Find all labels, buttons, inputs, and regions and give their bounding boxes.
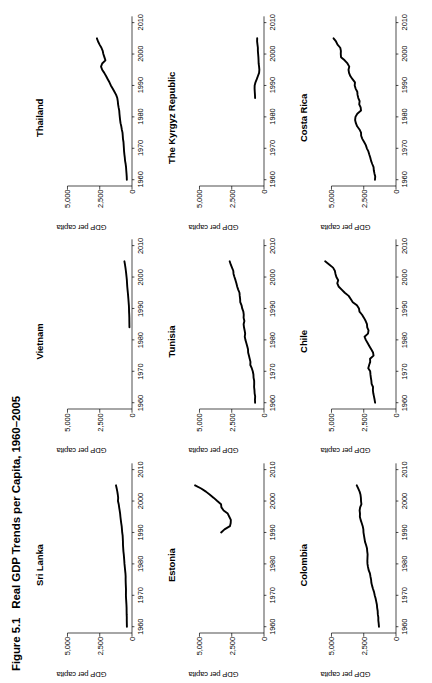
- chart-panel: The Kyrgyz RepublicGDP per capita02,5005…: [162, 6, 294, 230]
- x-tick-label: 1990: [136, 301, 145, 317]
- x-tick-label: 1970: [136, 363, 145, 379]
- x-tick-label: 1980: [268, 108, 277, 124]
- x-tick-label: 2000: [136, 46, 145, 62]
- x-tick-label: 1980: [136, 332, 145, 348]
- y-tick-label: 0: [260, 637, 269, 641]
- plot-svg: [184, 16, 264, 186]
- y-tick-label: 2,500: [359, 190, 368, 208]
- y-tick-label: 5,000: [63, 637, 72, 655]
- plot-svg: [52, 463, 132, 633]
- x-tick-label: 1960: [400, 395, 409, 411]
- panel-title: Costa Rica: [298, 6, 309, 230]
- x-tick-label: 1960: [400, 619, 409, 635]
- x-tick-label: 2010: [136, 14, 145, 30]
- y-axis-label-text: GDP per capita: [320, 670, 370, 679]
- y-tick-label: 5,000: [63, 190, 72, 208]
- x-tick-label: 2010: [400, 238, 409, 254]
- x-tick-label: 1980: [400, 108, 409, 124]
- chart-panel: VietnamGDP per capita02,5005,00019601970…: [30, 230, 162, 454]
- panel-title: Colombia: [298, 453, 309, 677]
- x-tick-label: 2010: [136, 238, 145, 254]
- x-tick-label: 2000: [400, 46, 409, 62]
- y-tick-label: 0: [392, 413, 401, 417]
- y-axis-ticks: 02,5005,000: [52, 190, 132, 218]
- plot-area: [316, 463, 396, 633]
- data-line: [230, 262, 255, 403]
- plot-area: [184, 463, 264, 633]
- x-tick-label: 2010: [268, 461, 277, 477]
- x-tick-label: 2000: [268, 46, 277, 62]
- y-tick-label: 2,500: [227, 637, 236, 655]
- panel-title: Sri Lanka: [34, 453, 45, 677]
- plot-svg: [184, 240, 264, 410]
- y-tick-label: 5,000: [195, 413, 204, 431]
- x-tick-label: 2000: [136, 493, 145, 509]
- y-axis-ticks: 02,5005,000: [184, 637, 264, 665]
- y-axis-label-text: GDP per capita: [188, 670, 238, 679]
- x-axis-ticks: 196019701980199020002010: [268, 463, 280, 633]
- data-line: [116, 485, 127, 626]
- x-axis-ticks: 196019701980199020002010: [268, 16, 280, 186]
- x-tick-label: 1990: [268, 301, 277, 317]
- y-tick-label: 5,000: [327, 190, 336, 208]
- y-tick-label: 0: [392, 190, 401, 194]
- y-tick-label: 2,500: [95, 190, 104, 208]
- chart-panel: Sri LankaGDP per capita02,5005,000196019…: [30, 453, 162, 677]
- x-tick-label: 1970: [400, 140, 409, 156]
- x-tick-label: 1980: [400, 332, 409, 348]
- data-line: [195, 485, 231, 532]
- x-axis-ticks: 196019701980199020002010: [136, 16, 148, 186]
- x-tick-label: 2010: [136, 461, 145, 477]
- y-axis-ticks: 02,5005,000: [184, 190, 264, 218]
- y-tick-label: 2,500: [227, 413, 236, 431]
- x-tick-label: 2010: [268, 238, 277, 254]
- plot-svg: [184, 463, 264, 633]
- x-tick-label: 2000: [400, 269, 409, 285]
- y-tick-label: 2,500: [359, 413, 368, 431]
- figure-title: Real GDP Trends per Capita, 1960–2005: [10, 396, 22, 609]
- plot-area: [184, 240, 264, 410]
- panel-title: Vietnam: [34, 230, 45, 454]
- y-tick-label: 5,000: [63, 413, 72, 431]
- chart-panel: EstoniaGDP per capita02,5005,00019601970…: [162, 453, 294, 677]
- x-tick-label: 1980: [136, 556, 145, 572]
- y-axis-label-text: GDP per capita: [320, 222, 370, 231]
- y-tick-label: 5,000: [327, 637, 336, 655]
- x-tick-label: 1980: [268, 556, 277, 572]
- y-axis-label-text: GDP per capita: [56, 222, 106, 231]
- y-tick-label: 0: [392, 637, 401, 641]
- x-tick-label: 1960: [136, 395, 145, 411]
- x-tick-label: 1990: [268, 524, 277, 540]
- x-axis-ticks: 196019701980199020002010: [400, 16, 412, 186]
- x-axis-ticks: 196019701980199020002010: [268, 240, 280, 410]
- x-tick-label: 2000: [268, 269, 277, 285]
- chart-panel: Costa RicaGDP per capita02,5005,00019601…: [294, 6, 426, 230]
- y-tick-label: 5,000: [327, 413, 336, 431]
- y-tick-label: 5,000: [195, 190, 204, 208]
- x-axis-ticks: 196019701980199020002010: [400, 463, 412, 633]
- plot-area: [184, 16, 264, 186]
- y-tick-label: 0: [260, 190, 269, 194]
- x-tick-label: 1970: [268, 363, 277, 379]
- x-tick-label: 1970: [268, 587, 277, 603]
- x-tick-label: 2000: [268, 493, 277, 509]
- data-line: [124, 262, 129, 328]
- y-axis-label: GDP per capita: [162, 667, 264, 681]
- y-axis-label: GDP per capita: [162, 220, 264, 234]
- y-tick-label: 2,500: [359, 637, 368, 655]
- x-tick-label: 1990: [268, 77, 277, 93]
- x-tick-label: 1980: [268, 332, 277, 348]
- y-axis-label: GDP per capita: [30, 220, 132, 234]
- plot-area: [52, 240, 132, 410]
- x-tick-label: 1970: [136, 587, 145, 603]
- x-tick-label: 1970: [136, 140, 145, 156]
- x-tick-label: 1960: [268, 171, 277, 187]
- y-axis-label: GDP per capita: [294, 443, 396, 457]
- x-tick-label: 2010: [400, 461, 409, 477]
- data-line: [334, 38, 376, 179]
- y-axis-ticks: 02,5005,000: [316, 637, 396, 665]
- x-tick-label: 1970: [400, 587, 409, 603]
- rotated-figure-stage: Figure 5.1 Real GDP Trends per Capita, 1…: [0, 0, 432, 683]
- chart-panel: ColombiaGDP per capita02,5005,0001960197…: [294, 453, 426, 677]
- panel-title: Thailand: [34, 6, 45, 230]
